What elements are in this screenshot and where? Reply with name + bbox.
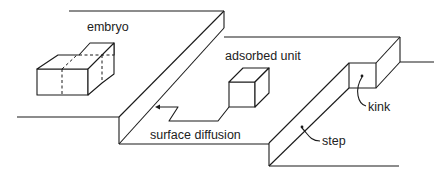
label-step: step [322,134,346,148]
embryo-cluster [37,43,114,95]
kink-marker [361,75,364,78]
label-kink: kink [368,100,391,114]
label-surface-diffusion: surface diffusion [150,128,241,142]
step-leader [302,128,320,141]
arrow-head-icon [155,105,160,110]
label-adsorbed-unit: adsorbed unit [225,49,301,63]
crystal-surface-diagram: embryo adsorbed unit surface diffusion k… [0,0,448,178]
step-marker [301,126,304,129]
surface-diffusion-path [155,105,229,122]
adsorbed-unit-cube [229,68,269,107]
label-embryo: embryo [87,20,129,34]
